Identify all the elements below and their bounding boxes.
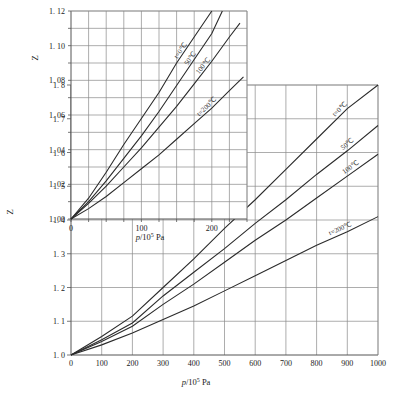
main-xtick-800: 800 — [311, 359, 323, 368]
main-curve-labels: t=0℃50℃100℃t=200℃ — [328, 100, 361, 237]
main-xtick-500: 500 — [219, 359, 231, 368]
main-x-axis-title-unit: Pa — [200, 377, 211, 387]
main-x-tick-labels: 01002003004005006007008009001000 — [69, 359, 386, 368]
main-xtick-700: 700 — [280, 359, 292, 368]
main-ytick-1: 1. 0 — [53, 351, 65, 360]
main-xtick-100: 100 — [96, 359, 108, 368]
main-xtick-200: 200 — [126, 359, 138, 368]
inset-x-axis-title: p/105 Pa — [135, 232, 165, 242]
main-xtick-400: 400 — [188, 359, 200, 368]
inset-x-axis-title-unit: Pa — [154, 232, 165, 242]
main-xtick-0: 0 — [69, 359, 73, 368]
main-xtick-600: 600 — [249, 359, 261, 368]
inset-x-axis-title-div: /10 — [140, 232, 151, 242]
main-ytick-1_1: 1. 1 — [53, 317, 65, 326]
inset-xtick-200: 200 — [206, 224, 218, 233]
compressibility-chart-figure: 01002003004005006007008009001000 1. 01. … — [0, 0, 393, 395]
inset-ytick-1_12: 1. 12 — [49, 7, 65, 16]
inset-y-tick-labels: 1. 001. 021. 041. 061. 081. 101. 12 — [49, 7, 65, 224]
main-ytick-1_3: 1. 3 — [53, 250, 65, 259]
inset-xtick-0: 0 — [69, 224, 73, 233]
chart-svg: 01002003004005006007008009001000 1. 01. … — [0, 0, 393, 395]
main-xtick-900: 900 — [341, 359, 353, 368]
inset-plot: 0100200 1. 001. 021. 041. 061. 081. 101.… — [30, 7, 247, 242]
inset-ytick-1: 1. 00 — [49, 215, 65, 224]
main-ytick-1_2: 1. 2 — [53, 284, 65, 293]
inset-ytick-1_06: 1. 06 — [49, 111, 65, 120]
main-xtick-300: 300 — [157, 359, 169, 368]
inset-ytick-1_04: 1. 04 — [49, 146, 65, 155]
inset-ytick-1_1: 1. 10 — [49, 42, 65, 51]
main-x-axis-title-div: /10 — [186, 377, 197, 387]
inset-y-axis-title: Z — [30, 55, 40, 61]
main-xtick-1000: 1000 — [370, 359, 386, 368]
inset-ytick-1_02: 1. 02 — [49, 180, 65, 189]
inset-ytick-1_08: 1. 08 — [49, 76, 65, 85]
main-y-axis-title: Z — [5, 209, 15, 215]
main-x-axis-title: p/105 Pa — [181, 377, 211, 387]
